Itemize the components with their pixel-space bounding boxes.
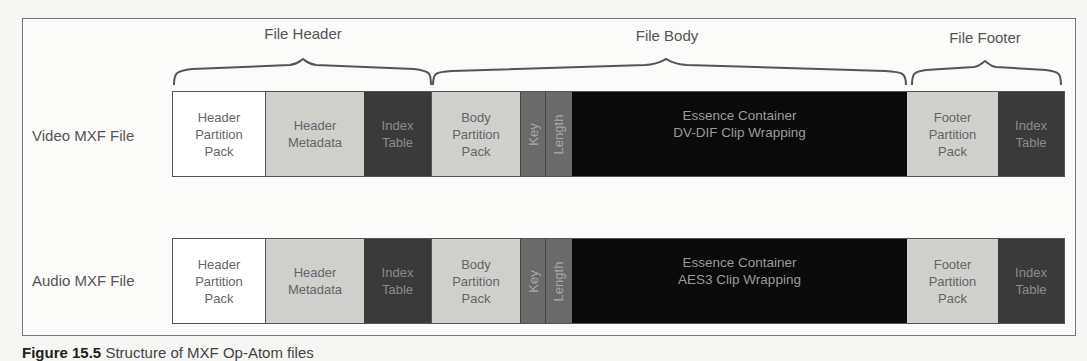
length-block: Length: [545, 239, 572, 323]
body-partition-pack: Body Partition Pack: [431, 239, 520, 323]
header-metadata: Header Metadata: [266, 92, 364, 176]
index-table-header: Index Table: [364, 92, 431, 176]
footer-partition-pack: Footer Partition Pack: [907, 239, 998, 323]
index-table-footer: Index Table: [998, 92, 1064, 176]
row-label-video: Video MXF File: [32, 127, 134, 144]
essence-container: Essence Container AES3 Clip Wrapping: [572, 239, 907, 323]
row-label-audio: Audio MXF File: [32, 272, 135, 289]
index-table-footer: Index Table: [998, 239, 1064, 323]
audio-mxf-row: Header Partition Pack Header Metadata In…: [172, 238, 1065, 324]
length-label: Length: [551, 114, 568, 154]
brace-file-header-icon: [172, 55, 434, 91]
key-block: Key: [520, 92, 545, 176]
header-partition-pack: Header Partition Pack: [173, 92, 266, 176]
essence-container: Essence Container DV-DIF Clip Wrapping: [572, 92, 907, 176]
figure-caption-text: Structure of MXF Op-Atom files: [105, 344, 313, 361]
header-partition-pack: Header Partition Pack: [173, 239, 266, 323]
figure-number: Figure 15.5: [22, 344, 101, 361]
key-block: Key: [520, 239, 545, 323]
section-label-file-footer: File Footer: [949, 29, 1021, 46]
figure-caption: Figure 15.5 Structure of MXF Op-Atom fil…: [22, 344, 314, 361]
key-label: Key: [525, 270, 542, 292]
length-label: Length: [551, 261, 568, 301]
header-metadata: Header Metadata: [266, 239, 364, 323]
index-table-header: Index Table: [364, 239, 431, 323]
section-label-file-body: File Body: [636, 27, 699, 44]
brace-file-footer-icon: [910, 55, 1065, 91]
brace-file-body-icon: [430, 55, 910, 91]
footer-partition-pack: Footer Partition Pack: [907, 92, 998, 176]
length-block: Length: [545, 92, 572, 176]
video-mxf-row: Header Partition Pack Header Metadata In…: [172, 91, 1065, 177]
section-label-file-header: File Header: [264, 25, 342, 42]
key-label: Key: [525, 123, 542, 145]
body-partition-pack: Body Partition Pack: [431, 92, 520, 176]
